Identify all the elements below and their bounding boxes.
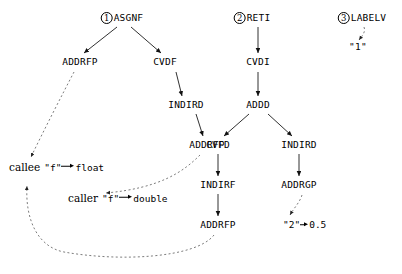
diagram-canvas: 1ASGNFADDRFPCVDFINDIRDADDRFP2RETICVDIADD… (0, 0, 402, 274)
tree-root-label: RETI (247, 13, 271, 23)
tree-edge (176, 72, 182, 96)
binding-scope-label: caller (68, 193, 98, 204)
tree-node-cvfd[interactable]: CVFD (206, 140, 230, 150)
symbol-reference-edge (290, 195, 302, 215)
tree-edge (224, 114, 249, 136)
tree-root-labelv[interactable]: 3LABELV (338, 12, 387, 24)
binding-name: "2" (283, 220, 300, 230)
tree-node-addrfp[interactable]: ADDRFP (200, 220, 236, 230)
binding-value: 0.5 (309, 220, 326, 230)
binding-arrow-icon (61, 163, 74, 170)
symbol-binding-callee[interactable]: callee"f"float (9, 162, 104, 173)
tree-edge (84, 27, 117, 53)
symbol-reference-edge (31, 72, 74, 157)
binding-arrow-icon (119, 194, 132, 201)
binding-name: "f" (44, 163, 61, 173)
tree-edge (131, 27, 161, 53)
binding-arrow-icon (300, 221, 308, 228)
tree-node-addrgp[interactable]: ADDRGP (281, 180, 317, 190)
tree-edge (268, 114, 292, 136)
tree-node-indird[interactable]: INDIRD (168, 100, 204, 110)
edge-layer (0, 0, 402, 274)
tree-index-badge: 3 (338, 12, 350, 24)
binding-value: double (133, 194, 167, 204)
binding-value: float (75, 163, 104, 173)
symbol-binding-const[interactable]: "2"0.5 (283, 220, 326, 230)
tree-edge (196, 114, 203, 136)
tree-root-reti[interactable]: 2RETI (234, 12, 271, 24)
binding-name: "f" (102, 194, 119, 204)
symbol-binding-caller[interactable]: caller"f"double (68, 193, 168, 204)
tree-node-indird[interactable]: INDIRD (281, 140, 317, 150)
tree-index-badge: 1 (101, 12, 113, 24)
tree-node-cvdf[interactable]: CVDF (153, 57, 177, 67)
binding-scope-label: callee (9, 162, 40, 173)
tree-index-badge: 2 (234, 12, 246, 24)
tree-node-addrfp[interactable]: ADDRFP (62, 57, 98, 67)
tree-root-label: LABELV (351, 13, 387, 23)
tree-node-cvdi[interactable]: CVDI (246, 57, 270, 67)
tree-node-addd[interactable]: ADDD (246, 100, 270, 110)
tree-root-asgnf[interactable]: 1ASGNF (101, 12, 144, 24)
tree-root-label: ASGNF (114, 13, 144, 23)
tree-node-indirf[interactable]: INDIRF (200, 180, 236, 190)
string-literal-node[interactable]: "1" (349, 42, 367, 52)
symbol-reference-edge (106, 155, 200, 193)
symbol-reference-edge (359, 27, 365, 40)
